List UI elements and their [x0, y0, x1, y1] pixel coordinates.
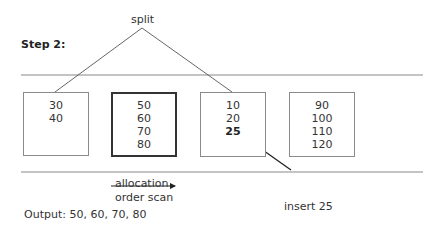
- page-box-3: 10 20 25: [200, 92, 266, 157]
- page-value: 50: [137, 99, 151, 112]
- page-box-2-scanned: 50 60 70 80: [111, 92, 177, 157]
- scan-label-top: allocation: [115, 177, 168, 190]
- page-value: 70: [137, 125, 151, 138]
- split-line-right: [142, 28, 232, 92]
- page-value: 100: [312, 112, 333, 125]
- page-value: 60: [137, 112, 151, 125]
- page-value: 120: [312, 138, 333, 151]
- inserted-value: 25: [225, 125, 240, 138]
- page-value: 30: [49, 99, 63, 112]
- step-title: Step 2:: [21, 38, 65, 51]
- page-value: 110: [312, 125, 333, 138]
- page-box-4: 90 100 110 120: [289, 92, 355, 157]
- page-value: 20: [226, 112, 240, 125]
- page-value: 90: [315, 99, 329, 112]
- page-value: 40: [49, 112, 63, 125]
- insert-label: insert 25: [284, 200, 333, 213]
- split-label: split: [131, 13, 154, 26]
- page-value: 80: [137, 138, 151, 151]
- output-text: Output: 50, 60, 70, 80: [24, 208, 146, 221]
- split-line-left: [55, 28, 142, 92]
- page-box-1: 30 40: [23, 92, 89, 156]
- scan-label-bottom: order scan: [115, 191, 173, 204]
- page-value: 10: [226, 99, 240, 112]
